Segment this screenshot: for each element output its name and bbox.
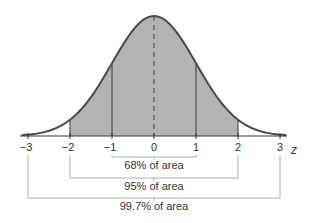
- area-bracket: [112, 155, 196, 157]
- normal-distribution-chart: −3−2−10123 z 68% of area95% of area99.7%…: [0, 0, 312, 223]
- area-brackets: 68% of area95% of area99.7% of area: [28, 155, 280, 212]
- tick-label: −1: [104, 141, 117, 153]
- area-label: 68% of area: [124, 159, 184, 171]
- z-axis-label: z: [290, 143, 297, 157]
- tick-label: −3: [20, 141, 33, 153]
- area-label: 99.7% of area: [120, 200, 189, 212]
- tick-label: −2: [62, 141, 75, 153]
- tick-label: 3: [277, 141, 283, 153]
- tick-label: 0: [151, 141, 157, 153]
- tick-label: 2: [235, 141, 241, 153]
- area-label: 95% of area: [124, 180, 184, 192]
- tick-label: 1: [193, 141, 199, 153]
